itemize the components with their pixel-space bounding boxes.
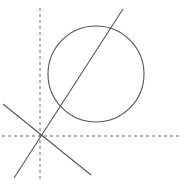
geometry-figure — [0, 0, 188, 190]
figure-canvas — [0, 0, 188, 190]
figure-background — [0, 0, 188, 190]
